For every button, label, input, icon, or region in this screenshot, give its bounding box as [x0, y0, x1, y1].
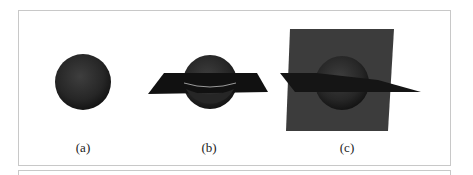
caption-c: (c)	[327, 140, 367, 156]
caption-b: (b)	[189, 140, 229, 156]
panel-b-sphere-with-plane	[148, 55, 268, 109]
panel-c-sphere-with-two-planes	[280, 29, 421, 131]
panel-a-sphere	[55, 54, 111, 110]
caption-a: (a)	[63, 140, 103, 156]
